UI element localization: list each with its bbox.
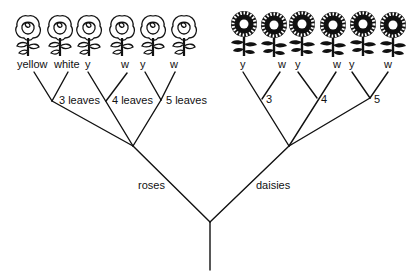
daisy-icon (350, 11, 376, 56)
leaf-label: w (383, 58, 392, 70)
subgroup-label: 4 (321, 93, 327, 105)
subgroup-label: 5 (374, 93, 380, 105)
leaf-label: y (349, 58, 355, 70)
leaf-label: w (169, 58, 178, 70)
leaf-label: w (277, 58, 286, 70)
rose-icon (110, 16, 135, 56)
leaf-label: y (240, 58, 246, 70)
leaf-label: yellow (17, 58, 48, 70)
leaf-label: white (53, 58, 80, 70)
subgroup-label: 5 leaves (166, 94, 207, 106)
rose-icons (16, 16, 197, 56)
leaf-label: y (85, 58, 91, 70)
daisy-icons (231, 11, 406, 57)
leaf-label: w (332, 58, 341, 70)
leaf-label: y (295, 58, 301, 70)
subgroup-label: 4 leaves (112, 94, 153, 106)
rose-icon (77, 16, 102, 56)
leaf-label: w (120, 58, 129, 70)
branch-label-daisies: daisies (256, 179, 291, 191)
daisy-icon (261, 12, 287, 57)
rose-icon (48, 16, 73, 56)
daisy-icon (380, 12, 406, 57)
daisy-edges (210, 72, 388, 222)
daisy-icon (320, 12, 346, 57)
classification-tree: yellow white y w y w y w y w y w 3 leave… (0, 0, 408, 280)
subgroup-label: 3 leaves (59, 94, 100, 106)
subgroup-label: 3 (266, 93, 272, 105)
branch-label-roses: roses (138, 179, 165, 191)
rose-icon (172, 16, 197, 56)
rose-icon (16, 16, 41, 56)
rose-icon (141, 16, 166, 56)
leaf-label: y (140, 58, 146, 70)
daisy-icon (231, 11, 257, 56)
daisy-icon (289, 11, 315, 56)
